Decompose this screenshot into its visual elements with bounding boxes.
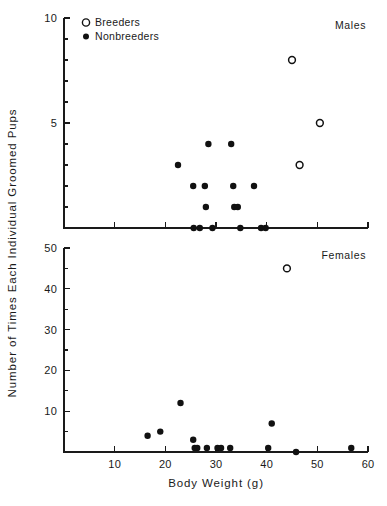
xtick-label-20: 20 (159, 458, 172, 470)
panel-label-males: Males (335, 19, 366, 31)
ytick-label-females-10: 10 (44, 405, 57, 417)
data-point-males-nonbreeder-4 (203, 204, 209, 210)
data-point-females-nonbreeder-10 (265, 445, 271, 451)
data-point-females-nonbreeder-6 (204, 445, 210, 451)
data-point-males-nonbreeder-7 (251, 183, 257, 189)
ytick-label-males-5: 5 (51, 117, 57, 129)
data-point-males-nonbreeder-11 (197, 225, 203, 231)
data-point-females-nonbreeder-8 (218, 445, 224, 451)
data-point-males-breeder-0 (289, 57, 296, 64)
scatter-figure: 510Males1020304050102030405060FemalesBre… (0, 0, 387, 506)
data-point-females-nonbreeder-1 (157, 428, 163, 434)
legend-label-breeders: Breeders (95, 16, 140, 28)
legend-marker-breeders (82, 19, 89, 26)
data-point-males-nonbreeder-1 (190, 183, 196, 189)
data-point-females-nonbreeder-9 (227, 445, 233, 451)
data-point-males-nonbreeder-5 (228, 141, 234, 147)
panel-label-females: Females (322, 249, 366, 261)
ytick-label-females-20: 20 (44, 364, 57, 376)
data-point-females-nonbreeder-2 (177, 400, 183, 406)
ytick-label-females-40: 40 (44, 283, 57, 295)
ytick-label-males-10: 10 (44, 12, 57, 24)
data-point-males-nonbreeder-15 (262, 225, 268, 231)
x-axis-title: Body Weight (g) (168, 477, 264, 489)
axis-spine-females (64, 248, 368, 452)
xtick-label-30: 30 (210, 458, 223, 470)
data-point-males-breeder-2 (296, 162, 303, 169)
data-point-males-nonbreeder-12 (209, 225, 215, 231)
data-point-females-nonbreeder-12 (293, 449, 299, 455)
data-point-females-breeder-0 (284, 265, 291, 272)
data-point-females-nonbreeder-0 (144, 432, 150, 438)
xtick-label-10: 10 (108, 458, 121, 470)
data-point-males-breeder-1 (316, 120, 323, 127)
legend-marker-nonbreeders (83, 34, 89, 40)
data-point-males-nonbreeder-13 (237, 225, 243, 231)
data-point-males-nonbreeder-0 (175, 162, 181, 168)
data-point-males-nonbreeder-3 (205, 141, 211, 147)
ytick-label-females-30: 30 (44, 324, 57, 336)
data-point-females-nonbreeder-13 (348, 445, 354, 451)
y-axis-title: Number of Times Each Individual Groomed … (6, 109, 18, 398)
data-point-males-nonbreeder-10 (191, 225, 197, 231)
data-point-females-nonbreeder-3 (190, 437, 196, 443)
data-point-females-nonbreeder-11 (269, 420, 275, 426)
xtick-label-60: 60 (362, 458, 375, 470)
xtick-label-50: 50 (311, 458, 324, 470)
xtick-label-40: 40 (260, 458, 273, 470)
data-point-males-nonbreeder-6 (230, 183, 236, 189)
data-point-females-nonbreeder-5 (194, 445, 200, 451)
ytick-label-females-50: 50 (44, 242, 57, 254)
legend-label-nonbreeders: Nonbreeders (95, 30, 159, 42)
plot-canvas: 510Males1020304050102030405060FemalesBre… (0, 0, 387, 506)
data-point-males-nonbreeder-9 (235, 204, 241, 210)
data-point-males-nonbreeder-2 (202, 183, 208, 189)
